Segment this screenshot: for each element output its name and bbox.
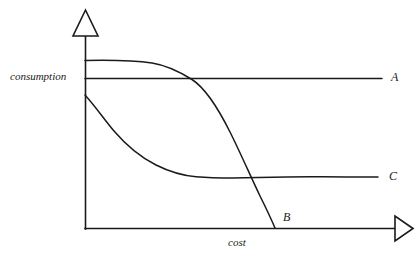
series-label-b: B bbox=[283, 211, 290, 223]
chart-figure: consumption cost A B C bbox=[0, 0, 419, 256]
y-axis-arrow-icon bbox=[73, 10, 98, 36]
y-axis-title: consumption bbox=[10, 71, 66, 82]
chart-canvas bbox=[0, 0, 419, 256]
series-label-a: A bbox=[391, 71, 398, 83]
series-line-b bbox=[85, 60, 275, 228]
x-axis-arrow-icon bbox=[395, 216, 413, 241]
x-axis-title: cost bbox=[228, 237, 246, 248]
series-label-c: C bbox=[389, 170, 397, 182]
